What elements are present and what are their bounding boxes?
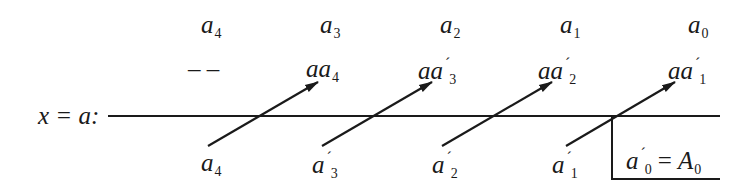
product-base: aa <box>668 57 693 84</box>
sum-sub: 2 <box>451 166 458 181</box>
sum-sub: 1 <box>571 166 578 181</box>
product-sub: 2 <box>569 72 576 87</box>
arrow-2 <box>322 82 432 146</box>
result-rhs-sub: 0 <box>694 162 701 177</box>
coef-sub: 4 <box>215 26 222 41</box>
row-label: x = a: <box>38 103 99 128</box>
product-sub: 3 <box>449 72 456 87</box>
result-base: a <box>626 147 639 174</box>
bottom-sum-a1-prime: a´1 <box>552 150 578 181</box>
coef-base: a <box>440 11 453 38</box>
result-rhs-base: A <box>678 147 693 174</box>
middle-product-aa3: aa´3 <box>418 56 456 87</box>
coef-sub: 2 <box>454 26 461 41</box>
prime-mark: ´ <box>641 145 646 162</box>
bottom-sum-a3-prime: a´3 <box>312 150 338 181</box>
bottom-sum-a4: a4 <box>201 150 222 179</box>
synthetic-division-diagram: x = a: a4 a3 a2 a1 a0 – – aa4 aa´3 aa´2 … <box>0 0 754 188</box>
coef-base: a <box>688 11 701 38</box>
sum-base: a <box>201 149 214 176</box>
top-coef-a2: a2 <box>440 12 461 41</box>
middle-product-aa4: aa4 <box>306 56 339 85</box>
product-base: aa <box>418 57 443 84</box>
top-coef-a0: a0 <box>688 12 709 41</box>
product-base: aa <box>306 55 331 82</box>
sum-sub: 4 <box>215 164 222 179</box>
product-base: aa <box>538 57 563 84</box>
coef-sub: 1 <box>574 26 581 41</box>
coef-base: a <box>201 11 214 38</box>
middle-dashes: – – <box>188 56 219 81</box>
top-coef-a1: a1 <box>560 12 581 41</box>
arrow-4 <box>566 82 675 146</box>
sum-base: a <box>552 151 565 178</box>
coef-sub: 0 <box>702 26 709 41</box>
arrow-1 <box>208 82 318 146</box>
prime-mark: ´ <box>447 149 452 166</box>
top-coef-a4: a4 <box>201 12 222 41</box>
bottom-sum-a2-prime: a´2 <box>432 150 458 181</box>
prime-mark: ´ <box>327 149 332 166</box>
coef-base: a <box>560 11 573 38</box>
result-sub: 0 <box>645 162 652 177</box>
arrow-3 <box>442 82 552 146</box>
top-coef-a3: a3 <box>320 12 341 41</box>
equals-sign: = <box>658 147 672 174</box>
sum-base: a <box>432 151 445 178</box>
result-remainder: a´0=A0 <box>626 146 701 177</box>
product-sub: 1 <box>699 72 706 87</box>
sum-base: a <box>312 151 325 178</box>
product-sub: 4 <box>332 70 339 85</box>
middle-product-aa1: aa´1 <box>668 56 706 87</box>
prime-mark: ´ <box>445 55 450 72</box>
prime-mark: ´ <box>565 55 570 72</box>
prime-mark: ´ <box>567 149 572 166</box>
coef-base: a <box>320 11 333 38</box>
middle-product-aa2: aa´2 <box>538 56 576 87</box>
sum-sub: 3 <box>331 166 338 181</box>
coef-sub: 3 <box>334 26 341 41</box>
prime-mark: ´ <box>695 55 700 72</box>
